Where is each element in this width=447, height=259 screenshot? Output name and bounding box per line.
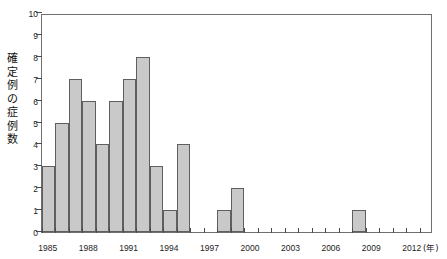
x-tick-mark	[379, 228, 380, 233]
y-tick-mark	[36, 34, 42, 35]
y-tick-mark	[36, 187, 42, 188]
y-tick-mark	[36, 12, 42, 13]
y-axis-tick-labels: 012345678910	[14, 0, 38, 259]
x-tick-mark	[82, 228, 83, 233]
bar-series	[42, 15, 431, 232]
y-tick-mark	[36, 100, 42, 101]
x-tick-mark	[366, 228, 367, 233]
x-tick-mark	[55, 228, 56, 233]
x-tick-label: 1997	[200, 243, 219, 253]
x-tick-mark	[217, 228, 218, 233]
bar	[150, 166, 163, 232]
x-tick-label: 2003	[281, 243, 300, 253]
x-tick-mark	[163, 228, 164, 233]
bar	[123, 79, 136, 232]
y-tick-mark	[36, 143, 42, 144]
y-tick-mark	[36, 209, 42, 210]
x-tick-label: 1985	[38, 243, 57, 253]
y-tick-mark	[36, 78, 42, 79]
x-tick-label: 1991	[119, 243, 138, 253]
bar	[96, 144, 109, 232]
x-tick-mark	[420, 228, 421, 233]
bar	[42, 166, 55, 232]
x-tick-mark	[109, 228, 110, 233]
x-tick-mark	[150, 228, 151, 233]
plot-area	[41, 14, 432, 233]
bar	[136, 57, 149, 232]
x-tick-label: 2000	[241, 243, 260, 253]
x-tick-label: 2012	[402, 243, 421, 253]
y-tick-label: 4	[20, 140, 38, 150]
y-tick-label: 3	[20, 162, 38, 172]
bar	[217, 210, 230, 232]
bar	[55, 123, 68, 233]
x-tick-mark	[339, 228, 340, 233]
x-tick-mark	[258, 228, 259, 233]
bar	[109, 101, 122, 232]
x-tick-label: 1994	[160, 243, 179, 253]
x-tick-label: 1988	[79, 243, 98, 253]
y-tick-label: 0	[20, 228, 38, 238]
y-tick-label: 6	[20, 97, 38, 107]
bar	[82, 101, 95, 232]
y-tick-label: 1	[20, 206, 38, 216]
x-tick-mark	[325, 228, 326, 233]
y-tick-label: 7	[20, 75, 38, 85]
x-tick-mark	[352, 228, 353, 233]
x-tick-mark	[177, 228, 178, 233]
x-tick-mark	[69, 228, 70, 233]
x-tick-mark	[136, 228, 137, 233]
x-tick-mark	[190, 228, 191, 233]
chart-figure: 確定例の症例数 012345678910 1985198819911994199…	[0, 0, 447, 259]
x-tick-mark	[285, 228, 286, 233]
y-tick-label: 5	[20, 119, 38, 129]
y-tick-mark	[36, 165, 42, 166]
y-tick-label: 2	[20, 184, 38, 194]
x-tick-mark	[231, 228, 232, 233]
bar	[69, 79, 82, 232]
bar	[177, 144, 190, 232]
bar	[163, 210, 176, 232]
x-tick-mark	[271, 228, 272, 233]
x-tick-mark	[298, 228, 299, 233]
x-tick-mark	[244, 228, 245, 233]
x-tick-label: 2006	[321, 243, 340, 253]
x-tick-mark	[204, 228, 205, 233]
x-axis-unit-label: (年)	[423, 241, 439, 253]
y-tick-mark	[36, 231, 42, 232]
y-tick-label: 9	[20, 31, 38, 41]
x-tick-mark	[393, 228, 394, 233]
x-tick-mark	[406, 228, 407, 233]
bar	[231, 188, 244, 232]
y-tick-mark	[36, 56, 42, 57]
x-tick-mark	[96, 228, 97, 233]
x-tick-mark	[312, 228, 313, 233]
x-tick-mark	[42, 228, 43, 233]
y-tick-mark	[36, 122, 42, 123]
x-tick-label: 2009	[362, 243, 381, 253]
x-tick-mark	[123, 228, 124, 233]
bar	[352, 210, 365, 232]
y-tick-label: 8	[20, 53, 38, 63]
y-tick-label: 10	[20, 9, 38, 19]
